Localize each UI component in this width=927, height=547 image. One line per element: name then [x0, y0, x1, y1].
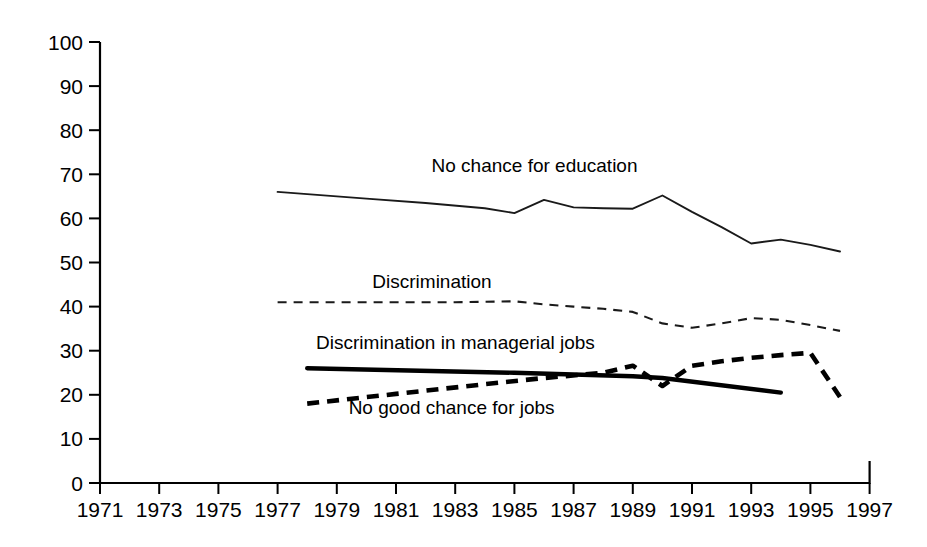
y-axis-ticks: 0102030405060708090100: [48, 31, 100, 495]
x-tick-label: 1987: [550, 498, 597, 521]
y-tick-label: 90: [60, 75, 83, 98]
y-tick-label: 40: [60, 295, 83, 318]
y-tick-label: 60: [60, 207, 83, 230]
y-tick-label: 50: [60, 251, 83, 274]
series-line-3: [307, 368, 781, 392]
series-line-2: [278, 301, 840, 331]
x-tick-label: 1985: [491, 498, 538, 521]
y-tick-label: 70: [60, 163, 83, 186]
y-tick-label: 10: [60, 427, 83, 450]
x-tick-label: 1997: [846, 498, 893, 521]
line-chart: 0102030405060708090100 19711973197519771…: [0, 0, 927, 547]
chart-canvas: 0102030405060708090100 19711973197519771…: [0, 0, 927, 547]
series-label-3: Discrimination in managerial jobs: [316, 332, 595, 353]
y-tick-label: 80: [60, 119, 83, 142]
x-tick-label: 1973: [136, 498, 183, 521]
x-tick-label: 1971: [77, 498, 124, 521]
y-tick-label: 30: [60, 339, 83, 362]
x-tick-label: 1979: [313, 498, 360, 521]
series-label-1: No chance for education: [432, 155, 638, 176]
data-series-group: [278, 192, 840, 404]
y-tick-label: 100: [48, 31, 83, 54]
x-tick-label: 1989: [609, 498, 656, 521]
series-line-1: [278, 192, 840, 252]
series-label-2: Discrimination: [372, 271, 491, 292]
series-label-4: No good chance for jobs: [349, 397, 555, 418]
series-line-4: [307, 353, 840, 404]
x-tick-label: 1995: [787, 498, 834, 521]
x-tick-label: 1975: [195, 498, 242, 521]
x-tick-label: 1981: [373, 498, 420, 521]
y-tick-label: 20: [60, 383, 83, 406]
x-axis-ticks: 1971197319751977197919811983198519871989…: [77, 483, 893, 521]
y-tick-label: 0: [71, 472, 83, 495]
series-label-group: No chance for educationDiscriminationDis…: [316, 155, 637, 418]
x-tick-label: 1983: [432, 498, 479, 521]
x-tick-label: 1991: [669, 498, 716, 521]
x-tick-label: 1993: [728, 498, 775, 521]
x-tick-label: 1977: [254, 498, 301, 521]
